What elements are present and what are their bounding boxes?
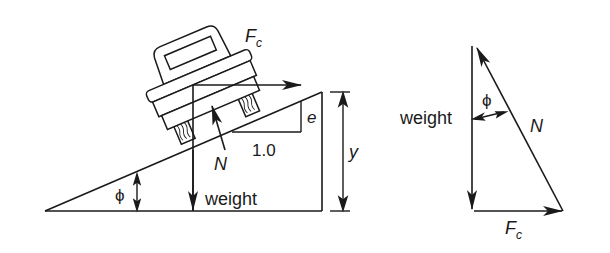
- incline-angle-arc: [134, 174, 140, 210]
- normal-force-label: N: [214, 154, 228, 174]
- centripetal-force-label: Fc: [245, 26, 262, 50]
- triangle-weight-label: weight: [399, 108, 452, 128]
- height-dimension: [330, 92, 350, 211]
- normal-force-arrow: [212, 106, 225, 150]
- triangle-normal-force-label: N: [530, 116, 544, 136]
- triangle-angle-phi: ϕ: [482, 91, 492, 110]
- rise-label-e: e: [307, 108, 316, 127]
- force-triangle: [472, 46, 563, 211]
- diagram-canvas: e 1.0 y ϕ Fc weight: [0, 0, 610, 253]
- triangle-centripetal-force-label: Fc: [505, 218, 522, 242]
- incline-angle-phi: ϕ: [115, 186, 125, 205]
- run-label: 1.0: [252, 141, 276, 160]
- triangle-angle-arrow: [473, 112, 506, 120]
- height-label-y: y: [347, 142, 359, 162]
- weight-label: weight: [204, 189, 257, 209]
